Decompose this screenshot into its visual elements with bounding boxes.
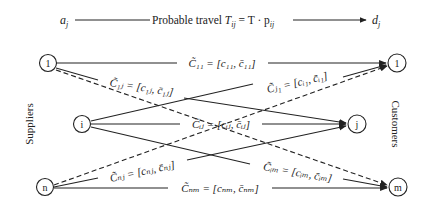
suppliers-label: Suppliers xyxy=(23,103,35,145)
customers-label: Customers xyxy=(390,100,402,147)
edge-label-i-j: C̃ᵢⱼ = [cᵢⱼ, c̄ᵢⱼ] xyxy=(192,118,250,130)
edge-i-m-b xyxy=(343,179,387,187)
header-row: aj Probable travel Tij = T · pij dj xyxy=(60,13,381,29)
customer-node-m-label: m xyxy=(394,182,402,193)
destination-d-label: dj xyxy=(372,13,381,29)
supplier-node-n-label: n xyxy=(43,182,48,193)
edge-label-i-1: C̃ⱼ₁ = [cᵢ₁, c̄ᵢ₁] xyxy=(266,69,329,95)
customer-node-1-label: 1 xyxy=(395,58,400,69)
header-text: Probable travel Tij = T · pij xyxy=(152,14,275,29)
edge-n-j-a xyxy=(54,178,98,187)
edge-n-j-b xyxy=(187,126,346,160)
edge-i-1-b xyxy=(343,65,386,77)
transport-network-diagram: aj Probable travel Tij = T · pij dj Supp… xyxy=(0,0,427,213)
origin-a-label: aj xyxy=(60,13,69,29)
edge-label-n-m: C̃ₙₘ = [cₙₘ, c̄ₙₘ] xyxy=(181,182,259,194)
customer-node-j-label: j xyxy=(355,119,359,130)
supplier-node-i-label: i xyxy=(81,119,84,130)
supplier-node-1-label: 1 xyxy=(46,58,51,69)
edge-label-1-1: C̃₁₁ = [c₁₁, c̄₁₁] xyxy=(188,57,255,69)
edge-label-1-j: C̃₁ⱼ = [c₁ⱼ, c̄₁ⱼ] xyxy=(109,76,174,98)
edge-1-j-a xyxy=(56,68,98,80)
edge-label-i-m: C̃ᵢₘ = [cᵢₘ, c̄ᵢₘ] xyxy=(262,160,333,184)
